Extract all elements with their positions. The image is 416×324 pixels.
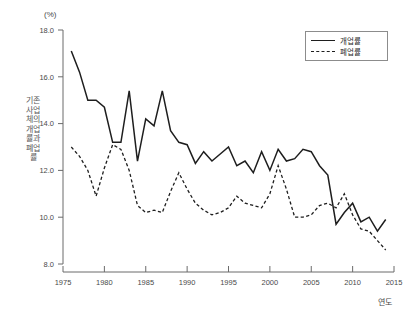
y-tick-label: 16.0 <box>39 73 54 82</box>
y-axis-group: 8.010.012.014.016.018.0 <box>39 26 63 269</box>
series-line-closing-rate <box>71 145 385 250</box>
x-tick-label: 2010 <box>344 278 361 287</box>
y-tick-label: 14.0 <box>39 119 54 128</box>
x-tick-label: 1975 <box>55 278 72 287</box>
legend-line-solid-icon <box>311 40 335 41</box>
y-tick-label: 12.0 <box>39 166 54 175</box>
legend-line-dashed-icon <box>311 51 335 52</box>
y-axis-ticks: 8.010.012.014.016.018.0 <box>39 26 63 269</box>
x-axis-ticks: 197519801985199019952000200520102015 <box>55 266 403 287</box>
x-tick-label: 1990 <box>179 278 196 287</box>
x-axis-group: 197519801985199019952000200520102015 <box>55 266 403 287</box>
legend-label-closing-rate: 폐업률 <box>340 46 361 57</box>
data-series-group <box>71 51 385 250</box>
x-tick-label: 1980 <box>96 278 113 287</box>
y-tick-label: 10.0 <box>39 213 54 222</box>
chart-figure: (%) 기존 사업체의 개업률과 폐업률 연도 8.010.012.014.01… <box>0 0 416 324</box>
x-tick-label: 2005 <box>303 278 320 287</box>
legend-item-opening-rate: 개업률 <box>311 35 382 46</box>
chart-legend: 개업률 폐업률 <box>305 31 388 61</box>
legend-label-opening-rate: 개업률 <box>340 35 361 46</box>
y-tick-label: 8.0 <box>44 260 54 269</box>
y-tick-label: 18.0 <box>39 26 54 35</box>
x-tick-label: 1995 <box>220 278 237 287</box>
x-tick-label: 2000 <box>262 278 279 287</box>
legend-item-closing-rate: 폐업률 <box>311 46 382 57</box>
x-tick-label: 2015 <box>386 278 403 287</box>
x-tick-label: 1985 <box>137 278 154 287</box>
